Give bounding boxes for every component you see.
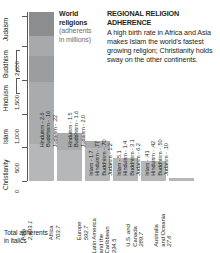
- callout-africa-judaism: Judaism - .22: [52, 111, 58, 147]
- bar-label-us-canada: U.S. and Canada 289.7: [125, 224, 145, 247]
- infographic-root: 0 500 1,000 1,500 2,000 Christianity Isl…: [0, 0, 220, 253]
- bar-callouts-latin-america: Islam - 1.7 Hinduism - .77 Buddhism - .7…: [88, 139, 114, 175]
- footnote-line-2: in italics: [4, 237, 84, 245]
- bar-callouts-us-canada: Islam - 5.1 Hinduism - 1.4 Buddhism - 3.…: [116, 139, 142, 175]
- bracket-buddhism: [16, 50, 20, 72]
- callout-europe-judaism: Judaism - 2.0: [80, 111, 86, 147]
- headline-block: REGIONAL RELIGION ADHERENCE A high birth…: [107, 9, 219, 64]
- bar-label-australia-oceania: Australia and Oceania 27.6: [153, 214, 173, 247]
- y-tick-1500: [22, 80, 27, 81]
- bar-label-latin-america: Latin America and the Caribbean 334.5: [91, 218, 117, 253]
- y-tick-500: [22, 147, 27, 148]
- bar-asia-seg-judaism: [29, 12, 54, 36]
- bar-column-asia: [29, 12, 54, 181]
- bar-label-latin-america-region-3: Caribbean: [104, 218, 111, 253]
- callout-latin-america-judaism: Judaism - 1.2: [108, 139, 114, 175]
- bar-label-us-canada-region-1: U.S. and: [125, 224, 132, 247]
- y-axis-line: [27, 12, 28, 181]
- callout-europe-buddhism: Buddhism - 1.6: [73, 111, 79, 147]
- y-tick-label-0: 0: [13, 190, 20, 193]
- legend-line-2: religions: [59, 19, 103, 28]
- axis-religion-hinduism: Hinduism: [2, 85, 9, 111]
- callout-australia-oceania-hinduism: Hinduism - .42: [151, 139, 157, 175]
- legend-line-3: (adherents: [59, 27, 103, 36]
- y-tick-top: [22, 16, 27, 17]
- footnote: Total adherents in italics: [4, 229, 84, 245]
- bar-label-latin-america-total: 334.5: [110, 218, 117, 253]
- y-tick-1000: [22, 114, 27, 115]
- bar-asia-seg-christianity: [29, 144, 54, 181]
- chart-legend: World religions (adherents in millions): [59, 10, 103, 44]
- bar-africa-seg-christianity: [57, 150, 82, 181]
- legend-line-4: in millions): [59, 36, 103, 45]
- axis-religion-christianity: Christianity: [2, 160, 9, 190]
- callout-us-canada-judaism: Judaism - 6.2: [136, 139, 142, 175]
- legend-line-1: World: [59, 10, 103, 19]
- bar-callouts-australia-oceania: Islam - .41 Hinduism - .42 Buddhism - .5…: [144, 139, 170, 175]
- y-tick-0: [22, 181, 27, 182]
- y-tick-label-1500: 1,500: [13, 95, 20, 110]
- headline-title: REGIONAL RELIGION ADHERENCE: [107, 9, 219, 27]
- callout-australia-oceania-judaism: Judaism - .10: [164, 139, 170, 175]
- callout-africa-buddhism: Buddhism - .16: [45, 111, 51, 147]
- bar-column-australia-oceania: [169, 178, 194, 181]
- footnote-line-1: Total adherents: [4, 229, 84, 237]
- bar-label-latin-america-region-2: and the: [97, 218, 104, 253]
- bar-label-australia-oceania-region-1: Australia: [153, 214, 160, 247]
- headline-body: A high birth rate in Africa and Asia mak…: [107, 28, 219, 64]
- axis-religion-judaism: Judaism: [2, 18, 9, 41]
- callout-latin-america-hinduism: Hinduism - .77: [95, 139, 101, 175]
- bar-label-australia-oceania-total: 27.6: [166, 214, 173, 247]
- bar-label-us-canada-region-2: Canada: [132, 224, 139, 247]
- callout-us-canada-hinduism: Hinduism - 1.4: [123, 139, 129, 175]
- axis-religion-buddhism: Buddhism: [2, 50, 9, 78]
- y-tick-2000: [22, 46, 27, 47]
- bar-asia-seg-buddhism: [29, 36, 54, 56]
- y-tick-label-1000: 1,000: [13, 129, 20, 144]
- bar-asia-seg-hinduism: [29, 56, 54, 82]
- bar-callouts-africa: Hinduism - 2.6 Buddhism - .16 Judaism - …: [39, 111, 58, 147]
- axis-religion-islam: Islam: [2, 129, 9, 144]
- bar-australia-oceania: [169, 178, 194, 181]
- bar-label-us-canada-total: 289.7: [138, 224, 145, 247]
- bar-callouts-europe: Hinduism - 1.5 Buddhism - 1.6 Judaism - …: [67, 111, 86, 147]
- bar-australia-oceania-seg-christianity: [169, 178, 194, 181]
- bar-asia: [29, 12, 54, 181]
- bar-label-australia-oceania-region-2: and Oceania: [160, 214, 167, 247]
- y-tick-label-500: 500: [13, 163, 20, 173]
- bracket-hinduism: [16, 78, 20, 94]
- bar-label-latin-america-region-1: Latin America: [91, 218, 98, 253]
